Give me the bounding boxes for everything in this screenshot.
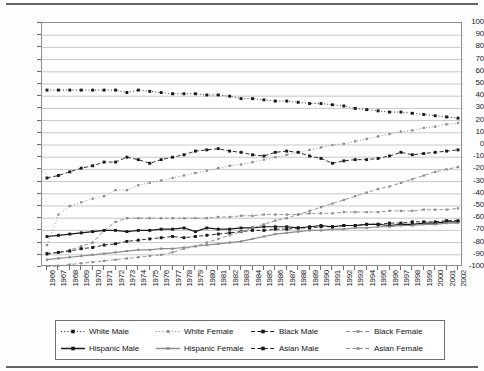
data-point <box>183 92 186 95</box>
legend-key-black-female <box>345 327 371 336</box>
data-point <box>434 126 436 128</box>
data-point <box>240 151 243 154</box>
data-point <box>365 223 368 226</box>
data-point <box>92 241 94 243</box>
data-point <box>331 228 333 230</box>
x-axis-tick <box>309 266 310 270</box>
data-point <box>445 222 447 224</box>
data-point <box>366 191 368 193</box>
data-point <box>274 233 276 235</box>
legend-key-black-male <box>250 327 276 336</box>
data-point <box>160 217 162 219</box>
data-point <box>80 231 83 234</box>
data-point <box>445 209 447 211</box>
data-point <box>137 158 140 161</box>
data-point <box>457 148 460 151</box>
data-point <box>126 250 128 252</box>
data-point <box>354 224 357 227</box>
data-point <box>331 144 333 146</box>
data-point <box>354 195 356 197</box>
data-point <box>422 220 425 223</box>
x-axis-tick <box>126 266 127 270</box>
data-point <box>457 122 459 124</box>
data-point <box>205 234 208 237</box>
data-point <box>400 182 402 184</box>
data-point <box>434 220 437 223</box>
data-point <box>457 166 459 168</box>
data-point <box>69 205 71 207</box>
data-point <box>68 250 71 253</box>
data-point <box>285 228 288 231</box>
data-point <box>126 189 128 191</box>
x-axis-tick <box>149 266 150 270</box>
data-point <box>445 115 448 118</box>
data-point <box>331 202 333 204</box>
data-point <box>148 90 151 93</box>
x-axis-tick-label: 1999 <box>426 270 434 287</box>
legend-label: Asian Female <box>374 344 423 353</box>
x-axis-tick <box>160 266 161 270</box>
data-point <box>342 159 345 162</box>
legend-label: Black Female <box>374 327 422 336</box>
data-point <box>171 177 173 179</box>
data-point <box>149 217 151 219</box>
data-point <box>251 153 254 156</box>
page-bottom-rule <box>6 366 478 368</box>
series-canvas <box>42 23 463 267</box>
data-point <box>103 161 106 164</box>
x-axis-tick-label: 1992 <box>346 270 354 287</box>
x-axis-tick-label: 1979 <box>197 270 205 287</box>
x-axis-tick-label: 1987 <box>289 270 297 287</box>
data-point <box>57 174 60 177</box>
data-point <box>297 230 299 232</box>
data-point <box>217 228 220 231</box>
series-white-male <box>46 89 460 120</box>
data-point <box>240 97 243 100</box>
x-axis-tick <box>331 266 332 270</box>
data-point <box>114 229 117 232</box>
data-point <box>80 255 82 257</box>
x-axis-tick <box>92 266 93 270</box>
data-point <box>228 228 231 231</box>
data-point <box>103 244 106 247</box>
data-point <box>343 228 345 230</box>
data-point <box>274 228 277 231</box>
data-point <box>388 210 390 212</box>
legend-item: Hispanic Male <box>60 344 155 353</box>
data-point <box>411 220 414 223</box>
x-axis-tick-label: 1988 <box>300 270 308 287</box>
data-point <box>103 229 106 232</box>
data-point <box>263 158 265 160</box>
data-point <box>206 241 208 243</box>
legend-item: Asian Female <box>345 344 440 353</box>
data-point <box>434 209 436 211</box>
legend-item: Hispanic Female <box>155 344 250 353</box>
data-point <box>183 217 185 219</box>
data-point <box>205 227 208 230</box>
data-point <box>114 242 117 245</box>
data-point <box>80 167 83 170</box>
data-point <box>354 140 356 142</box>
data-point <box>320 102 323 105</box>
data-point <box>69 256 71 258</box>
data-point <box>263 235 265 237</box>
data-point <box>251 227 253 229</box>
data-point <box>377 109 380 112</box>
data-point <box>445 123 447 125</box>
data-point <box>46 252 49 255</box>
legend-label: Black Male <box>279 327 318 336</box>
data-point <box>286 213 288 215</box>
data-point <box>366 227 368 229</box>
line-chart: 1009080706050403020100-10-20-30-40-50-60… <box>0 0 484 310</box>
data-point <box>206 244 208 246</box>
data-point <box>171 92 174 95</box>
x-axis-tick <box>69 266 70 270</box>
x-axis-tick-label: 1971 <box>106 270 114 287</box>
data-point <box>434 223 436 225</box>
x-axis-tick-label: 2001 <box>449 270 457 287</box>
data-point <box>91 246 94 249</box>
x-axis-tick-label: 1996 <box>392 270 400 287</box>
x-axis-tick <box>434 266 435 270</box>
x-axis-tick-label: 1980 <box>209 270 217 287</box>
data-point <box>308 229 310 231</box>
